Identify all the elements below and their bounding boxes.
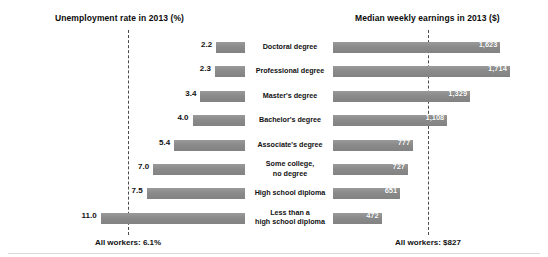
unemployment-bar <box>101 213 245 224</box>
unemployment-value-label: 4.0 <box>163 113 189 122</box>
left-footnote: All workers: 6.1% <box>95 238 161 247</box>
earnings-bar <box>333 66 510 77</box>
unemployment-value-label: 3.4 <box>170 89 196 98</box>
unemployment-value-label: 7.0 <box>123 162 149 171</box>
unemployment-value-label: 7.5 <box>117 186 143 195</box>
unemployment-bar <box>216 42 245 53</box>
chart-row: 7.5High school diploma651 <box>0 182 548 206</box>
earnings-value-label: 727 <box>392 162 405 171</box>
unemployment-bar <box>147 188 245 199</box>
chart-row: 2.3Professional degree1,714 <box>0 60 548 84</box>
category-label: Associate's degree <box>248 140 332 150</box>
unemployment-bar <box>200 91 245 102</box>
chart-row: 3.4Master's degree1,329 <box>0 85 548 109</box>
earnings-value-label: 777 <box>398 138 411 147</box>
unemployment-bar <box>153 164 245 175</box>
unemployment-value-label: 11.0 <box>71 211 97 220</box>
category-label: Bachelor's degree <box>248 115 332 125</box>
unemployment-value-label: 2.3 <box>185 64 211 73</box>
right-footnote: All workers: $827 <box>395 238 461 247</box>
unemployment-bar <box>174 140 245 151</box>
unemployment-value-label: 2.2 <box>186 40 212 49</box>
chart-row: 4.0Bachelor's degree1,108 <box>0 109 548 133</box>
earnings-bar <box>333 42 500 53</box>
category-label: Less than a high school diploma <box>248 208 332 227</box>
category-label: Professional degree <box>248 66 332 76</box>
earnings-value-label: 1,714 <box>488 64 507 73</box>
chart-row: 5.4Associate's degree777 <box>0 134 548 158</box>
earnings-value-label: 1,108 <box>426 113 445 122</box>
chart-row: 7.0Some college, no degree727 <box>0 158 548 182</box>
earnings-value-label: 1,329 <box>448 89 467 98</box>
bottom-divider <box>8 253 540 254</box>
chart-container: Unemployment rate in 2013 (%) Median wee… <box>0 0 548 257</box>
earnings-value-label: 472 <box>366 211 379 220</box>
category-label: High school diploma <box>248 188 332 198</box>
unemployment-bar <box>215 66 245 77</box>
unemployment-value-label: 5.4 <box>144 138 170 147</box>
unemployment-bar <box>193 115 245 126</box>
earnings-value-label: 1,623 <box>479 40 498 49</box>
chart-row: 11.0Less than a high school diploma472 <box>0 207 548 231</box>
earnings-value-label: 651 <box>385 186 398 195</box>
chart-rows: 2.2Doctoral degree1,6232.3Professional d… <box>0 0 548 257</box>
category-label: Doctoral degree <box>248 42 332 52</box>
category-label: Some college, no degree <box>248 159 332 178</box>
category-label: Master's degree <box>248 91 332 101</box>
chart-row: 2.2Doctoral degree1,623 <box>0 36 548 60</box>
